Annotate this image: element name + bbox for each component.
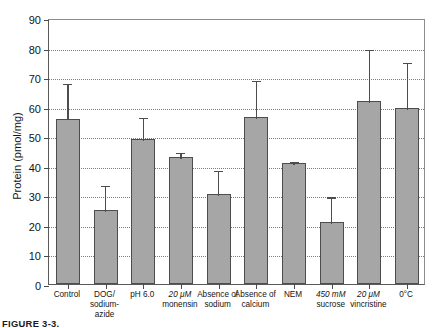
error-bar-cap — [327, 197, 336, 198]
x-axis-tick-label-line: calcium — [233, 300, 279, 310]
bar — [357, 101, 381, 284]
bar-group — [282, 20, 306, 284]
bar-group — [320, 20, 344, 284]
error-bar-cap — [101, 186, 110, 187]
bar — [94, 210, 118, 284]
x-axis-tick — [219, 284, 220, 289]
x-axis-tick — [181, 284, 182, 289]
x-axis-tick — [369, 284, 370, 289]
y-axis-tick-label: 90 — [29, 15, 41, 26]
bar-group — [131, 20, 155, 284]
y-axis-tick-label: 40 — [29, 162, 41, 173]
error-bar-cap — [365, 50, 374, 51]
error-bar-line — [331, 197, 332, 224]
y-axis-tick-label: 80 — [29, 44, 41, 55]
bar-group — [169, 20, 193, 284]
error-bar-cap — [139, 118, 148, 119]
plot-area: 0102030405060708090 — [48, 19, 425, 285]
y-axis-tick-label: 70 — [29, 74, 41, 85]
figure-container: Protein (pmol/mg) 0102030405060708090 Co… — [0, 0, 440, 328]
bar-group — [395, 20, 419, 284]
error-bar-line — [67, 84, 68, 121]
y-axis-tick-label: 20 — [29, 221, 41, 232]
error-bar-line — [143, 118, 144, 142]
error-bar-line — [105, 186, 106, 213]
x-axis-tick-label-line: 0°C — [383, 290, 429, 300]
error-bar-line — [407, 63, 408, 110]
error-bar-cap — [214, 171, 223, 172]
bar-group — [244, 20, 268, 284]
error-bar-line — [218, 171, 219, 196]
y-axis-tick-label: 0 — [35, 281, 41, 292]
bar-group — [357, 20, 381, 284]
y-axis-title: Protein (pmol/mg) — [11, 61, 23, 251]
y-axis-tick-label: 10 — [29, 251, 41, 262]
x-axis-labels: ControlDOG/ sodium-azidepH 6.020 μMmonen… — [48, 290, 425, 316]
bar — [207, 194, 231, 284]
x-axis-tick — [106, 284, 107, 289]
bar-series — [49, 20, 424, 284]
error-bar-line — [256, 81, 257, 119]
error-bar-cap — [63, 84, 72, 85]
x-axis-tick — [407, 284, 408, 289]
bar — [169, 157, 193, 284]
error-bar-cap — [252, 81, 261, 82]
y-axis-tick-label: 30 — [29, 192, 41, 203]
y-axis-tick-label: 50 — [29, 133, 41, 144]
y-axis-tick — [44, 286, 49, 287]
x-axis-tick — [256, 284, 257, 289]
x-axis-tick-label-line: vincristine — [346, 300, 392, 310]
figure-caption-label: FIGURE 3-3. — [2, 318, 59, 328]
bar — [244, 117, 268, 284]
bar-group — [94, 20, 118, 284]
bar — [131, 139, 155, 284]
x-axis-tick — [143, 284, 144, 289]
figure-caption: FIGURE 3-3. — [2, 318, 438, 328]
error-bar-line — [369, 50, 370, 103]
x-axis-tick — [294, 284, 295, 289]
bar-group — [56, 20, 80, 284]
bar — [282, 163, 306, 284]
error-bar-cap — [403, 63, 412, 64]
bar — [320, 222, 344, 284]
x-axis-tick-label: 0°C — [383, 290, 429, 300]
bar-group — [207, 20, 231, 284]
bar — [56, 119, 80, 285]
bar — [395, 108, 419, 284]
x-axis-tick — [332, 284, 333, 289]
error-bar-cap — [176, 153, 185, 154]
x-axis-tick — [68, 284, 69, 289]
y-axis-tick-label: 60 — [29, 103, 41, 114]
error-bar-cap — [290, 162, 299, 163]
